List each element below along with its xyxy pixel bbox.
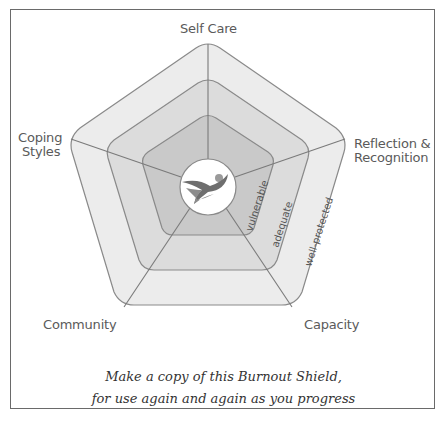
axis-label-capacity: Capacity (304, 318, 359, 332)
axis-label-self-care: Self Care (180, 22, 237, 36)
axis-label-reflection-line2: Recognition (354, 151, 428, 165)
axis-label-reflection-line1: Reflection & (354, 137, 431, 151)
caption-line-2: for use again and again as you progress (0, 388, 447, 410)
axis-label-coping-line1: Coping (18, 131, 62, 145)
axis-label-community: Community (43, 318, 116, 332)
axis-label-coping-line2: Styles (22, 145, 60, 159)
caption-line-1: Make a copy of this Burnout Shield, (0, 366, 447, 388)
